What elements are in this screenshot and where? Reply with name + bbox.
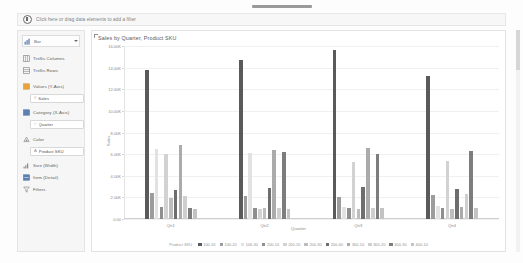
legend-swatch	[368, 243, 371, 246]
y-axis-tick-label: 16.00K	[108, 44, 121, 49]
bar[interactable]	[376, 154, 380, 219]
y-axis-tick-label: 14.00K	[108, 65, 121, 70]
bar[interactable]	[352, 162, 356, 219]
bar[interactable]	[183, 196, 187, 219]
bar[interactable]	[371, 208, 375, 219]
bar[interactable]	[164, 154, 168, 219]
bar[interactable]	[193, 209, 197, 219]
bar[interactable]	[188, 208, 192, 219]
bar[interactable]	[268, 188, 272, 219]
legend-swatch	[411, 243, 414, 246]
pill-product-sku[interactable]: A Product SKU	[30, 147, 84, 156]
bar[interactable]	[174, 190, 178, 219]
legend-label: 400-10	[416, 242, 428, 247]
bar-chart-icon	[24, 38, 31, 45]
y-axis-tick-label: 6.00K	[111, 152, 121, 157]
legend-swatch	[220, 243, 223, 246]
scrollbar-thumb[interactable]	[516, 30, 520, 70]
shelf-trellis-rows[interactable]: Trellis Rows	[22, 64, 80, 76]
bar[interactable]	[469, 151, 473, 219]
bar[interactable]	[366, 148, 370, 219]
shelf-trellis-columns[interactable]: Trellis Columns	[22, 52, 80, 64]
bar[interactable]	[248, 153, 252, 219]
bar[interactable]	[446, 161, 450, 219]
bar[interactable]	[258, 209, 262, 219]
bar[interactable]	[455, 189, 459, 219]
size-icon	[23, 162, 30, 169]
bar[interactable]	[426, 76, 430, 219]
bar[interactable]	[436, 206, 440, 219]
pill-sales[interactable]: # Sales	[30, 94, 84, 103]
shelf-values-y-axis[interactable]: Values (Y-Axis)	[22, 80, 80, 92]
bar[interactable]	[357, 209, 361, 219]
legend-item[interactable]: 100-20	[220, 242, 237, 247]
legend-swatch	[283, 243, 286, 246]
bar[interactable]	[239, 60, 243, 219]
bar[interactable]	[272, 150, 276, 219]
legend-item[interactable]: 400-10	[411, 242, 428, 247]
legend-item[interactable]: 300-30	[389, 242, 406, 247]
chart-title: Sales by Quarter, Product SKU	[98, 35, 177, 41]
bar[interactable]	[282, 152, 286, 219]
bar[interactable]	[361, 187, 365, 219]
legend-swatch	[326, 243, 329, 246]
bar[interactable]	[474, 208, 478, 219]
bar[interactable]	[179, 145, 183, 219]
bar[interactable]	[155, 149, 159, 219]
legend-label: 200-20	[288, 242, 300, 247]
filter-circle-icon	[23, 15, 32, 24]
bar[interactable]	[277, 208, 281, 219]
legend-title: Product SKU	[169, 242, 192, 247]
legend-item[interactable]: 200-10	[262, 242, 279, 247]
bar[interactable]	[263, 208, 267, 219]
window-drag-handle[interactable]	[252, 5, 312, 8]
bar[interactable]	[150, 193, 154, 219]
mark-type-label: Bar	[34, 39, 41, 44]
bar[interactable]	[460, 207, 464, 219]
x-axis-tick-label: Qtr2	[218, 223, 312, 228]
mark-type-selector[interactable]: Bar	[22, 35, 80, 47]
legend-item[interactable]: 200-20	[283, 242, 300, 247]
bar[interactable]	[380, 208, 384, 219]
chevron-down-icon[interactable]	[74, 40, 78, 42]
shelf-color[interactable]: Color	[22, 133, 80, 145]
bar[interactable]	[253, 208, 257, 219]
bar[interactable]	[347, 208, 351, 219]
color-icon	[23, 136, 30, 143]
legend-item[interactable]: 100-10	[198, 242, 215, 247]
pill-quarter[interactable]: ○ Quarter	[30, 120, 84, 129]
legend-item[interactable]: 300-10	[347, 242, 364, 247]
bar[interactable]	[169, 198, 173, 219]
legend-swatch	[198, 243, 201, 246]
chart-legend[interactable]: Product SKU 100-10100-20100-30200-10200-…	[98, 242, 499, 247]
y-axis-tick-label: 0.00	[113, 217, 121, 222]
filter-shelf[interactable]: Click here or drag data elements to add …	[17, 13, 506, 26]
bar[interactable]	[337, 197, 341, 219]
bar[interactable]	[431, 195, 435, 219]
bar[interactable]	[441, 208, 445, 219]
pill-label: Product SKU	[39, 149, 64, 154]
shelf-filters[interactable]: Filters	[22, 184, 80, 196]
bar[interactable]	[160, 207, 164, 219]
vertical-scrollbar[interactable]	[516, 30, 520, 252]
bar[interactable]	[244, 196, 248, 219]
chart-card: Sales by Quarter, Product SKU Sales Quar…	[91, 30, 506, 252]
bar[interactable]	[287, 209, 291, 219]
legend-swatch	[347, 243, 350, 246]
shelf-item-detail[interactable]: Item (Detail)	[22, 172, 80, 184]
filter-funnel-icon	[23, 186, 30, 193]
shelf-label: Size (Width)	[33, 163, 58, 168]
bar[interactable]	[342, 207, 346, 219]
legend-item[interactable]: 200-40	[326, 242, 343, 247]
legend-item[interactable]: 200-30	[304, 242, 321, 247]
legend-item[interactable]: 100-30	[241, 242, 258, 247]
legend-item[interactable]: 300-20	[368, 242, 385, 247]
bar[interactable]	[333, 50, 337, 219]
shelf-category-x-axis[interactable]: Category (X-Axis)	[22, 107, 80, 119]
shelf-size-width[interactable]: Size (Width)	[22, 160, 80, 172]
bar[interactable]	[465, 194, 469, 219]
bar[interactable]	[145, 70, 149, 219]
shelf-label: Color	[33, 137, 44, 142]
x-axis-tick-label: Qtr3	[312, 223, 406, 228]
bar[interactable]	[450, 209, 454, 219]
